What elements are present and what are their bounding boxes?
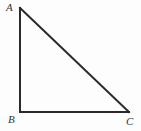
geometry-figure-canvas: A B C — [0, 0, 141, 131]
triangle-shape — [0, 0, 141, 131]
vertex-label-c: C — [126, 116, 133, 127]
vertex-label-b: B — [8, 114, 15, 125]
vertex-label-a: A — [6, 2, 13, 13]
